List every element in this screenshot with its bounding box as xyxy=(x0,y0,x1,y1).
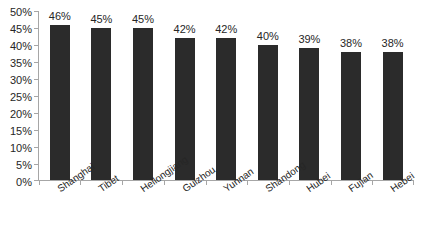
x-axis-tick xyxy=(80,181,81,185)
y-axis-tick-label: 5% xyxy=(16,160,32,171)
bar xyxy=(133,28,153,180)
y-axis-tick-label: 20% xyxy=(10,109,32,120)
y-axis-tick-label: 10% xyxy=(10,143,32,154)
y-axis-tick-labels: 50% 45% 40% 35% 30% 25% 20% 15% 10% 5% 0… xyxy=(0,0,34,243)
y-axis-tick xyxy=(34,28,38,29)
y-axis-tick-label: 45% xyxy=(10,24,32,35)
y-axis-tick xyxy=(34,130,38,131)
x-axis-tick xyxy=(372,181,373,185)
y-axis-tick xyxy=(34,45,38,46)
y-axis-tick-label: 40% xyxy=(10,41,32,52)
bar xyxy=(258,45,278,180)
bar-value-label: 38% xyxy=(373,38,413,49)
bar-chart: 50% 45% 40% 35% 30% 25% 20% 15% 10% 5% 0… xyxy=(0,0,422,243)
y-axis-tick-label: 50% xyxy=(10,7,32,18)
y-axis-tick-label: 25% xyxy=(10,92,32,103)
y-axis-tick xyxy=(34,96,38,97)
y-axis-tick xyxy=(34,11,38,12)
bar-value-label: 39% xyxy=(289,34,329,45)
x-axis-tick xyxy=(122,181,123,185)
x-axis-tick xyxy=(206,181,207,185)
y-axis-tick-label: 30% xyxy=(10,75,32,86)
bar xyxy=(91,28,111,180)
bar-value-label: 45% xyxy=(123,14,163,25)
bar-value-label: 42% xyxy=(206,24,246,35)
bar-value-label: 38% xyxy=(331,38,371,49)
bar xyxy=(383,52,403,180)
y-axis-tick-label: 15% xyxy=(10,126,32,137)
bar-value-label: 46% xyxy=(40,11,80,22)
y-axis-tick xyxy=(34,113,38,114)
x-axis-tick xyxy=(247,181,248,185)
bar-value-label: 42% xyxy=(165,24,205,35)
x-axis-tick xyxy=(331,181,332,185)
x-axis-tick xyxy=(413,181,414,185)
bar xyxy=(50,25,70,180)
y-axis-tick xyxy=(34,164,38,165)
y-axis-tick xyxy=(34,62,38,63)
bar xyxy=(341,52,361,180)
bar xyxy=(299,48,319,180)
bar-value-label: 45% xyxy=(81,14,121,25)
y-axis-tick-label: 0% xyxy=(16,177,32,188)
bar xyxy=(216,38,236,180)
x-axis-tick xyxy=(39,181,40,185)
y-axis-tick xyxy=(34,147,38,148)
y-axis-tick-label: 35% xyxy=(10,58,32,69)
x-axis-tick xyxy=(164,181,165,185)
bar-value-label: 40% xyxy=(248,31,288,42)
y-axis-tick xyxy=(34,79,38,80)
x-axis-tick xyxy=(289,181,290,185)
